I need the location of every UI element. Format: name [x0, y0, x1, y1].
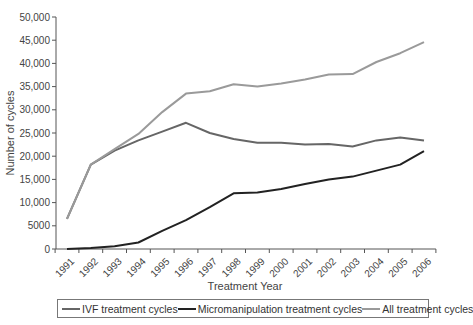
- x-tick-label: 1994: [124, 255, 148, 279]
- x-tick-label: 2001: [291, 255, 315, 279]
- line-chart: 0500010,00015,00020,00025,00030,00035,00…: [0, 0, 445, 300]
- x-tick-label: 1998: [219, 255, 243, 279]
- legend-label-all: All treatment cycles: [382, 303, 473, 315]
- legend-label-micromanipulation: Micromanipulation treatment cycles: [198, 303, 363, 315]
- legend-item-micromanipulation: Micromanipulation treatment cycles: [178, 303, 363, 315]
- legend-item-ivf: IVF treatment cycles: [62, 303, 178, 315]
- x-tick-label: 1993: [100, 255, 124, 279]
- x-tick-label: 1997: [196, 255, 220, 279]
- legend-swatch-micromanipulation: [178, 308, 196, 310]
- y-axis: 0500010,00015,00020,00025,00030,00035,00…: [19, 12, 56, 255]
- y-tick-label: 40,000: [19, 58, 50, 69]
- y-tick-label: 25,000: [19, 128, 50, 139]
- y-tick-label: 50,000: [19, 12, 50, 23]
- y-tick-label: 30,000: [19, 104, 50, 115]
- legend-item-all: All treatment cycles: [362, 303, 473, 315]
- x-tick-label: 2000: [267, 255, 291, 279]
- y-tick-label: 35,000: [19, 81, 50, 92]
- x-tick-label: 1999: [243, 255, 267, 279]
- chart-legend: IVF treatment cycles Micromanipulation t…: [57, 299, 429, 318]
- x-tick-label: 2004: [362, 255, 386, 279]
- y-tick-label: 5000: [28, 220, 51, 231]
- y-tick-label: 10,000: [19, 197, 50, 208]
- legend-swatch-all: [362, 308, 380, 310]
- series-line-0: [67, 123, 424, 219]
- x-tick-label: 2006: [410, 255, 434, 279]
- series-line-1: [67, 151, 424, 249]
- y-tick-label: 20,000: [19, 151, 50, 162]
- legend-label-ivf: IVF treatment cycles: [82, 303, 178, 315]
- y-tick-label: 45,000: [19, 35, 50, 46]
- x-tick-label: 1991: [53, 255, 77, 279]
- x-tick-label: 2005: [386, 255, 410, 279]
- x-axis-title: Treatment Year: [208, 280, 283, 292]
- series-lines: [67, 42, 424, 249]
- x-tick-label: 1992: [77, 255, 101, 279]
- x-tick-label: 2002: [315, 255, 339, 279]
- y-tick-label: 15,000: [19, 174, 50, 185]
- x-tick-label: 1996: [172, 255, 196, 279]
- x-tick-label: 2003: [338, 255, 362, 279]
- legend-swatch-ivf: [62, 308, 80, 310]
- x-axis: 1991199219931994199519961997199819992000…: [53, 249, 436, 279]
- y-tick-label: 0: [44, 244, 50, 255]
- y-axis-title: Number of cycles: [4, 90, 16, 175]
- x-tick-label: 1995: [148, 255, 172, 279]
